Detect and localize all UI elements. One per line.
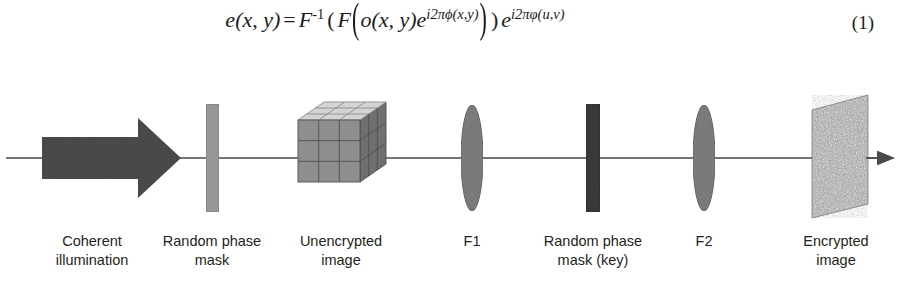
label-encrypted-image: Encrypted image [775, 232, 897, 270]
lens-f2 [693, 105, 715, 211]
diagram-labels: Coherent illumination Random phase mask … [0, 232, 910, 292]
label-unencrypted-image-line2: image [277, 251, 405, 270]
label-random-phase-mask-key-line2: mask (key) [527, 251, 659, 270]
label-unencrypted-image: Unencrypted image [277, 232, 405, 270]
equation-lhs-args: (x, y) [235, 7, 280, 32]
equation-close-paren-outer: ) [488, 7, 501, 32]
label-random-phase-mask-line1: Random phase [146, 232, 278, 251]
equation-key-exponent: i2πφ(u,v) [511, 6, 565, 22]
equation-open-paren-big: ( [352, 0, 359, 44]
equation-phase-mask-exponent: i2πϕ(x,y) [426, 6, 478, 22]
equation-block: e(x, y)=F-1(F(o(x, y)ei2πϕ(x,y)))ei2πφ(u… [0, 0, 910, 52]
random-phase-mask-bar [206, 104, 219, 212]
lens-f1 [461, 105, 483, 211]
label-encrypted-image-line1: Encrypted [775, 232, 897, 251]
equation-inverse-fourier-symbol: F [299, 7, 312, 32]
label-lens-f1: F1 [442, 232, 502, 251]
label-lens-f2-line1: F2 [674, 232, 734, 251]
label-random-phase-mask-key: Random phase mask (key) [527, 232, 659, 270]
label-lens-f1-line1: F1 [442, 232, 502, 251]
equation-object-symbol: o [360, 7, 371, 32]
equation-close-paren-big: ) [480, 0, 487, 44]
equation-lhs-symbol: e [225, 7, 235, 32]
equation-equals: = [280, 7, 298, 32]
label-unencrypted-image-line1: Unencrypted [277, 232, 405, 251]
equation-object-args: (x, y) [371, 7, 416, 32]
equation-exp-base-2: e [501, 7, 511, 32]
equation-number: (1) [852, 12, 874, 34]
equation-exp-base-1: e [417, 7, 427, 32]
unencrypted-image-cube [298, 102, 386, 182]
equation-fourier-symbol: F [338, 7, 351, 32]
encrypted-image-plane [812, 95, 868, 218]
label-random-phase-mask-key-line1: Random phase [527, 232, 659, 251]
equation-expression: e(x, y)=F-1(F(o(x, y)ei2πϕ(x,y)))ei2πφ(u… [0, 6, 790, 33]
equation-inverse-fourier-exponent: -1 [312, 6, 324, 22]
coherent-illumination-arrow [42, 118, 181, 198]
optical-setup-diagram [0, 52, 910, 232]
label-encrypted-image-line2: image [775, 251, 897, 270]
random-phase-mask-key-bar [586, 104, 600, 212]
label-random-phase-mask-line2: mask [146, 251, 278, 270]
label-random-phase-mask: Random phase mask [146, 232, 278, 270]
equation-open-paren-outer: ( [324, 7, 337, 32]
label-lens-f2: F2 [674, 232, 734, 251]
